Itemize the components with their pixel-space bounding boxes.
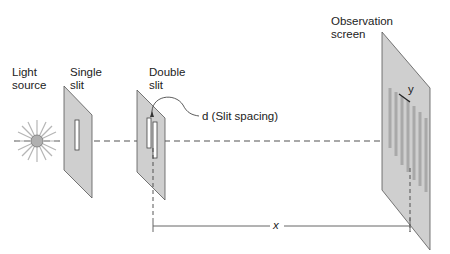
double-slit-label-2: slit	[149, 79, 163, 92]
observation-screen-panel	[382, 32, 430, 250]
fringe-y-label: y	[408, 83, 414, 96]
slit-spacing-label: d (Slit spacing)	[202, 110, 278, 123]
double-slit-label-1: Double	[149, 66, 185, 79]
distance-x-dimension	[153, 218, 410, 232]
distance-x-label: x	[273, 219, 279, 232]
light-source-icon	[16, 120, 58, 162]
observation-screen-label-2: screen	[331, 28, 366, 41]
single-slit-label-1: Single	[70, 66, 102, 79]
double-slit-diagram: Light source Single slit Double slit d (…	[0, 0, 450, 254]
double-slit-panel	[137, 90, 165, 218]
observation-screen-label-1: Observation	[331, 15, 393, 28]
single-slit-panel	[64, 86, 92, 198]
light-source-label-2: source	[12, 79, 47, 92]
light-source-label-1: Light	[12, 66, 37, 79]
single-slit-label-2: slit	[70, 79, 84, 92]
